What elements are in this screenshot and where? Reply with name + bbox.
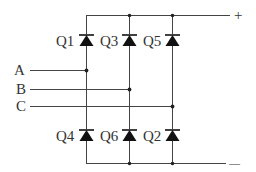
negative-rail-label: — (228, 157, 241, 169)
device-q2-label: Q2 (143, 128, 161, 144)
junction-dot (171, 14, 175, 18)
junction-dot (171, 162, 175, 166)
junction-dot (128, 14, 132, 18)
junction-dot (128, 162, 132, 166)
bridge-circuit-diagram: + — A B C Q1 Q3 Q5 (0, 0, 256, 172)
device-q3-label: Q3 (100, 33, 118, 49)
input-a-label: A (14, 62, 25, 78)
device-q1-label: Q1 (56, 33, 74, 49)
junction-dot-a (85, 69, 89, 73)
diode-q5-icon (165, 34, 180, 46)
diode-q3-icon (122, 34, 137, 46)
device-q4-label: Q4 (56, 128, 75, 144)
diode-q6-icon (122, 129, 137, 141)
junction-dot-b (128, 88, 132, 92)
input-c-label: C (16, 98, 26, 114)
diode-q4-icon (79, 129, 94, 141)
device-q5-label: Q5 (143, 33, 161, 49)
junction-dot-c (171, 105, 175, 109)
device-q6-label: Q6 (100, 128, 119, 144)
diode-q2-icon (165, 129, 180, 141)
diode-q1-icon (79, 34, 94, 46)
positive-rail-label: + (234, 7, 242, 23)
input-b-label: B (16, 81, 26, 97)
